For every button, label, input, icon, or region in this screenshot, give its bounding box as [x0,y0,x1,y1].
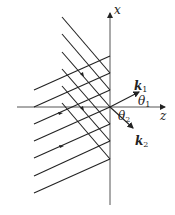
reflected-lines [62,17,110,159]
theta1-label: θ1 [138,95,150,109]
direction-arrows [58,72,84,148]
theta2-label: θ2 [118,110,130,124]
k1-label: k1 [134,80,147,94]
x-axis-label: x [114,4,121,16]
z-axis-label: z [160,110,166,122]
k1-vector [110,92,139,107]
k2-label: k2 [135,135,148,149]
